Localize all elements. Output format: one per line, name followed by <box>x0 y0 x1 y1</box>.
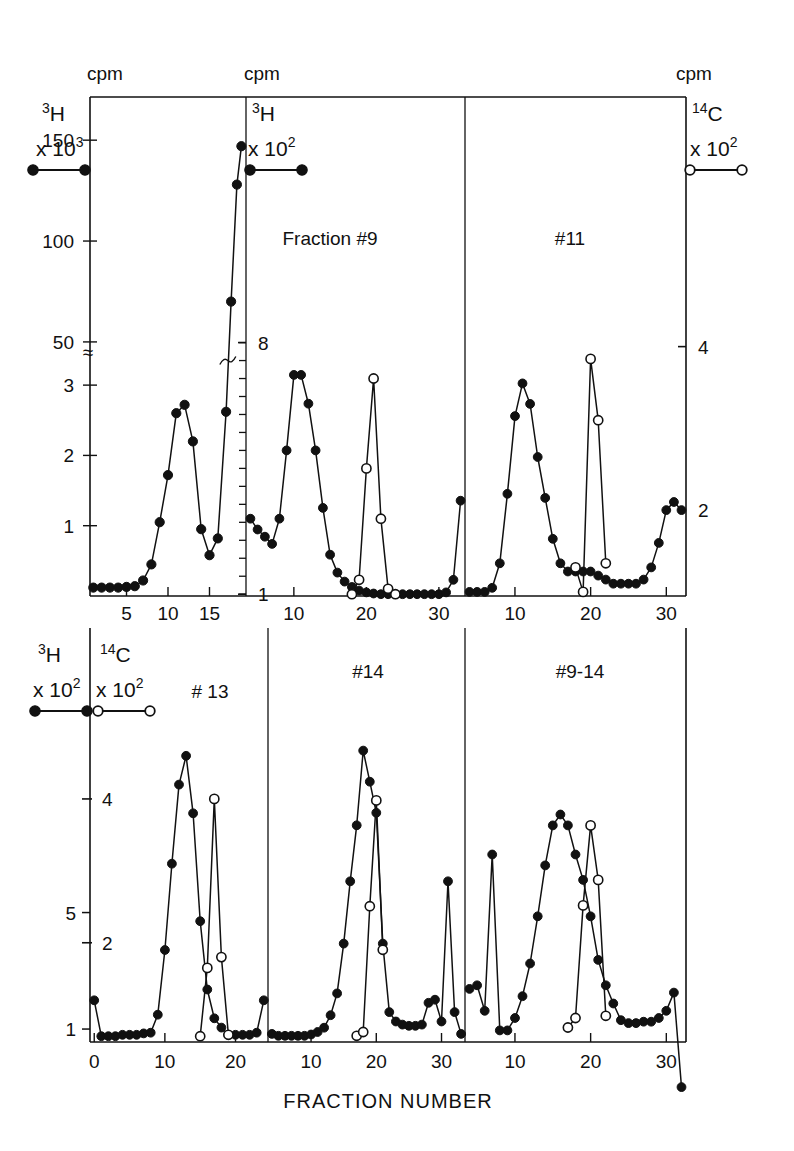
panel-5-3h-point <box>339 939 348 948</box>
legend-14c-exponent-p4: x 102 <box>96 675 144 701</box>
cpm-label-left: cpm <box>87 63 123 84</box>
panel-4-14c-point <box>224 1030 233 1039</box>
panel-6-xtick-label: 10 <box>504 1051 525 1072</box>
plot-frame <box>90 97 686 1042</box>
xaxis-title: FRACTION NUMBER <box>283 1090 492 1112</box>
panel-1-ytick-label: 50 <box>53 332 74 353</box>
panel-2-3h-point <box>261 532 270 541</box>
legend-3h-p1-marker <box>28 165 38 175</box>
panel-6-data <box>465 810 686 1091</box>
panel-2-3h-point <box>268 540 277 549</box>
panel-6-3h-point <box>518 992 527 1001</box>
legend-3h-p1-marker <box>80 165 90 175</box>
panel-4-3h-point <box>168 859 177 868</box>
legend-14c-p3-marker <box>737 165 747 175</box>
panel-2-14c-point <box>347 590 356 599</box>
panel-1-3h-point <box>237 142 246 151</box>
panel-3-3h-point <box>495 559 504 568</box>
panel-3-3h-point <box>488 583 497 592</box>
panel-6-3h-point <box>564 821 573 830</box>
panel-4-3h-point <box>210 1014 219 1023</box>
panel-5-xtick-label: 30 <box>431 1051 452 1072</box>
panel-3-3h-point <box>503 489 512 498</box>
panel-3-3h-point <box>639 575 648 584</box>
panel-4-outer-ytick-label: 1 <box>65 1019 76 1040</box>
panel-5-xtick-label: 20 <box>366 1051 387 1072</box>
panel-1-3h-point <box>172 409 181 418</box>
panel-6-3h-point <box>533 912 542 921</box>
panel-6-14c-point <box>601 1011 610 1020</box>
panel-6-3h-point <box>548 821 557 830</box>
panel-5-3h-point <box>346 877 355 886</box>
panel-5-3h-point <box>352 821 361 830</box>
panel-6-3h-point <box>571 850 580 859</box>
panel-6-14c-point <box>571 1013 580 1022</box>
legend-14c-isotope-p4: 14C <box>100 641 131 666</box>
panel-1-xtick-label: 15 <box>199 603 220 624</box>
panel-3-3h-point <box>556 559 565 568</box>
panel-5-3h-point <box>385 1008 394 1017</box>
panel-6-3h-point <box>609 999 618 1008</box>
panel-5-3h-point <box>320 1023 329 1032</box>
panel-5-3h-point <box>437 1017 446 1026</box>
panel-2-3h-line <box>250 375 460 594</box>
panel-6-14c-point <box>563 1023 572 1032</box>
panel-1-3h-point <box>197 525 206 534</box>
panel-4-3h-point <box>175 780 184 789</box>
panel-3-14c-point <box>571 563 580 572</box>
panel-2-data <box>246 371 465 599</box>
panel-titles: Fraction #9#11# 13#14#9-14 <box>192 228 605 702</box>
panel-5-xtick-label: 10 <box>300 1051 321 1072</box>
panel-4-3h-line <box>94 756 264 1036</box>
panel-5-3h-point <box>359 746 368 755</box>
panel-6-3h-point <box>480 1006 489 1015</box>
axis-headers: cpmcpmcpm3Hx 1033Hx 10214Cx 1023Hx 10214… <box>28 63 747 716</box>
panel-3-3h-point <box>662 506 671 515</box>
panel-3-ytick-label: 4 <box>698 337 709 358</box>
panel-1-3h-point <box>188 437 197 446</box>
panel-5-3h-point <box>444 877 453 886</box>
panel-2-3h-point <box>442 588 451 597</box>
panel-3-3h-point <box>548 534 557 543</box>
panel-4-inner-ytick-label: 2 <box>102 933 113 954</box>
panel-1-3h-point <box>139 576 148 585</box>
panel-6-3h-point <box>670 988 679 997</box>
panel-1-3h-line <box>93 146 241 587</box>
panel-2-3h-point <box>333 568 342 577</box>
cpm-label-middle: cpm <box>244 63 280 84</box>
panel-2-3h-point <box>304 399 313 408</box>
panel-1-data <box>89 142 246 593</box>
panel-2-ytick-label: 8 <box>258 333 269 354</box>
panel-6-3h-point <box>526 959 535 968</box>
panel-1-3h-point <box>114 583 123 592</box>
panel-2-3h-point <box>326 550 335 559</box>
panel-5-14c-point <box>372 796 381 805</box>
panel-4-3h-point <box>146 1028 155 1037</box>
xaxis-title-group: FRACTION NUMBER <box>283 1090 492 1112</box>
legend-14c-isotope-p3: 14C <box>692 100 723 125</box>
panel-3-data <box>465 354 686 596</box>
panel-3-3h-point <box>518 379 527 388</box>
panel-3-14c-line <box>576 359 606 592</box>
panel-6-title: #9-14 <box>556 661 605 682</box>
panel-3-title: #11 <box>555 228 585 249</box>
panel-3-3h-point <box>670 498 679 507</box>
panel-6-3h-point <box>594 956 603 965</box>
panel-6-14c-point <box>579 901 588 910</box>
panel-6-14c-point <box>594 875 603 884</box>
panel-2-3h-point <box>319 504 328 513</box>
chart-svg: 15010050321≈5101581102030421020305142010… <box>0 0 794 1151</box>
panel-1-xtick-label: 10 <box>157 603 178 624</box>
panel-3-xtick-label: 10 <box>504 603 525 624</box>
legend-3h-p4-marker <box>82 706 92 716</box>
panel-3-14c-point <box>586 354 595 363</box>
panel-4-14c-point <box>210 794 219 803</box>
panel-2-xtick-label: 10 <box>283 603 304 624</box>
panel-1-ytick-label: 1 <box>63 516 74 537</box>
panel-4-14c-point <box>217 953 226 962</box>
panel-3-14c-point <box>594 416 603 425</box>
legend-3h-isotope-p4: 3H <box>38 641 61 666</box>
panel-1-3h-point <box>180 400 189 409</box>
legend-14c-exponent-p3: x 102 <box>690 134 738 160</box>
panel-4-14c-line <box>200 799 228 1036</box>
